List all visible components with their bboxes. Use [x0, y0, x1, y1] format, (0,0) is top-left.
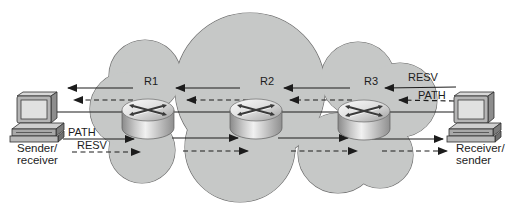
- right-host-label-line2: sender: [456, 154, 491, 166]
- left-host-label-line2: receiver: [17, 154, 58, 166]
- router-r1-label: R1: [144, 75, 158, 87]
- router-r2-icon: [230, 99, 282, 139]
- right-path-message-label: PATH: [418, 89, 446, 101]
- rsvp-diagram-canvas: R1 R2 R3 Sender/ receiver Receiver/ send…: [0, 0, 514, 213]
- rsvp-diagram-figure: R1 R2 R3 Sender/ receiver Receiver/ send…: [0, 0, 514, 213]
- router-r1-icon: [122, 99, 174, 139]
- right-resv-message-label: RESV: [408, 71, 439, 83]
- left-host-computer-icon: [10, 92, 64, 142]
- right-host-computer-icon: [447, 92, 501, 142]
- left-host-label-line1: Sender/: [17, 142, 58, 154]
- router-r3-label: R3: [364, 75, 378, 87]
- left-path-message-label: PATH: [68, 126, 96, 138]
- right-host-label-line1: Receiver/: [456, 142, 505, 154]
- left-resv-message-label: RESV: [77, 139, 108, 151]
- router-r2-label: R2: [260, 75, 274, 87]
- router-r3-icon: [338, 100, 390, 140]
